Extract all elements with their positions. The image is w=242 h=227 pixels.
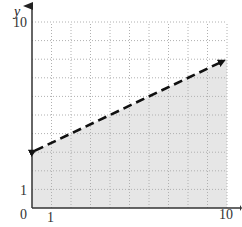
x-tick-1: 1 [47,210,54,225]
x-tick-10: 10 [219,207,233,222]
y-tick-1: 1 [20,183,27,198]
origin-label: 0 [20,207,27,222]
y-tick-10: 10 [13,15,27,30]
inequality-graph: y 10 1 0 1 10 [0,0,242,227]
